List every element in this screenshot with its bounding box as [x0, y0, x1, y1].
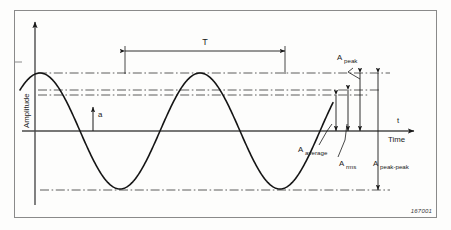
- period-label: T: [202, 37, 208, 47]
- figure-background: [0, 0, 451, 230]
- y-axis-label: Amplitude: [22, 93, 31, 128]
- instantaneous-label: a: [98, 110, 103, 119]
- figure-id-code: 167001: [411, 208, 432, 214]
- peak-peak-label-base: A: [373, 159, 379, 168]
- average-label-base: A: [298, 145, 304, 154]
- rms-label-base: A: [339, 159, 345, 168]
- rms-label-subscript: rms: [346, 163, 356, 170]
- diagram-canvas: T a A peak A average A: [0, 0, 451, 230]
- average-label-subscript: average: [305, 149, 328, 156]
- peak-peak-label-subscript: peak-peak: [380, 163, 410, 170]
- peak-label-base: A: [337, 53, 343, 62]
- waveform-amplitude-diagram: T a A peak A average A: [0, 0, 451, 230]
- peak-label-subscript: peak: [344, 57, 358, 64]
- x-axis-label: Time: [388, 135, 405, 144]
